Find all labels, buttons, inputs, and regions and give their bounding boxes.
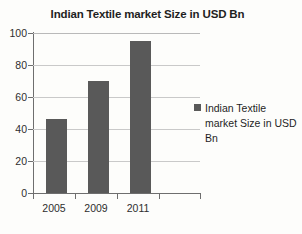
x-tick-label-2011: 2011: [116, 202, 160, 214]
y-tick-label-80: 80: [1, 60, 27, 71]
chart-legend: Indian Textile market Size in USD Bn: [194, 101, 300, 146]
legend-item[interactable]: Indian Textile market Size in USD Bn: [194, 101, 300, 146]
x-tick-label-2005: 2005: [32, 202, 76, 214]
y-axis-labels: 100 80 60 40 20 0: [0, 0, 27, 234]
y-tick-label-60: 60: [1, 92, 27, 103]
bar-2009[interactable]: [88, 81, 109, 193]
bar-2011[interactable]: [130, 41, 151, 193]
plot-area: [33, 33, 200, 193]
x-tick-label-2009: 2009: [74, 202, 118, 214]
y-tick-label-0: 0: [1, 188, 27, 199]
x-tick-mark-3: [159, 194, 160, 199]
x-tick-mark-2: [117, 194, 118, 199]
legend-square-marker: [194, 104, 201, 111]
y-tick-label-40: 40: [1, 124, 27, 135]
chart-title: Indian Textile market Size in USD Bn: [20, 8, 275, 20]
gridline-80: [33, 65, 200, 66]
bar-chart: Indian Textile market Size in USD Bn 100…: [0, 0, 302, 234]
gridline-100: [33, 33, 200, 34]
x-tick-mark-4: [200, 194, 201, 199]
x-tick-mark-1: [75, 194, 76, 199]
bar-2005[interactable]: [46, 119, 67, 193]
gridline-60: [33, 97, 200, 98]
legend-item-label: Indian Textile market Size in USD Bn: [205, 101, 297, 146]
y-tick-label-20: 20: [1, 156, 27, 167]
y-tick-label-100: 100: [1, 28, 27, 39]
x-tick-mark-0: [33, 194, 34, 199]
